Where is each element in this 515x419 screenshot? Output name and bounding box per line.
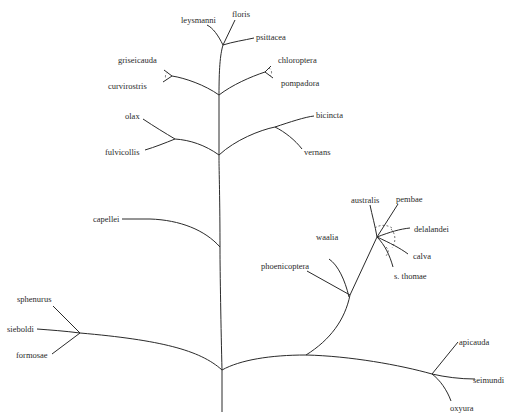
- branch-s-thomae: [377, 237, 393, 267]
- branch-pembae: [377, 204, 398, 237]
- label-formosae: formosae: [16, 350, 48, 360]
- branch-bicincta: [275, 116, 314, 127]
- label-vernans: vernans: [304, 147, 330, 157]
- branch-african-stem: [306, 237, 377, 355]
- branch-griseicauda: [164, 70, 172, 76]
- branch-left-lower: [80, 333, 222, 370]
- label-floris: floris: [232, 9, 250, 19]
- label-psittacea: psittacea: [256, 32, 286, 42]
- branch-curvirostris: [163, 76, 172, 82]
- label-waalia: waalia: [316, 232, 338, 242]
- main-trunk: [219, 45, 223, 412]
- branch-leysmanni: [207, 25, 223, 45]
- label-delalandei: delalandei: [414, 224, 450, 234]
- label-fulvicollis: fulvicollis: [105, 147, 139, 157]
- branch-sieboldi: [37, 329, 80, 333]
- label-curvirostris: curvirostris: [108, 81, 147, 91]
- label-pompadora: pompadora: [281, 78, 319, 88]
- label-sieboldi: sieboldi: [7, 324, 35, 334]
- label-sphenurus: sphenurus: [17, 294, 51, 304]
- label-bicincta: bicincta: [316, 110, 343, 120]
- phylogenetic-tree-diagram: leysmanni floris psittacea griseicauda c…: [0, 0, 515, 419]
- branch-psittacea: [223, 38, 254, 45]
- branch-right-lower: [222, 355, 432, 374]
- branch-phoenicoptera: [307, 271, 350, 295]
- label-apicauda: apicauda: [459, 337, 489, 347]
- branch-floris: [223, 20, 235, 45]
- branch-sphenurus: [53, 306, 80, 333]
- tree-canvas: leysmanni floris psittacea griseicauda c…: [0, 0, 515, 419]
- branch-seimundi: [432, 374, 475, 379]
- label-capellei: capellei: [93, 214, 120, 224]
- branch-oxyura: [432, 374, 451, 401]
- branch-right-upper: [219, 72, 265, 95]
- label-seimundi: seimundi: [473, 375, 505, 385]
- branch-formosae: [52, 333, 80, 354]
- label-olax: olax: [125, 111, 140, 121]
- label-calva: calva: [413, 251, 431, 261]
- branch-olax: [143, 119, 175, 139]
- branch-left-upper: [172, 76, 219, 95]
- label-pembae: pembae: [396, 194, 423, 204]
- label-australis: australis: [351, 195, 379, 205]
- branch-vernans: [275, 127, 302, 149]
- branch-calva: [377, 237, 408, 254]
- branch-right-mid: [219, 127, 275, 155]
- branch-left-mid: [175, 139, 219, 155]
- branch-waalia: [329, 259, 349, 297]
- branch-australis: [370, 205, 377, 237]
- label-oxyura: oxyura: [450, 403, 474, 413]
- label-s-thomae: s. thomae: [394, 271, 427, 281]
- branch-capellei: [122, 219, 220, 247]
- branch-apicauda: [432, 342, 458, 374]
- label-chloroptera: chloroptera: [278, 55, 317, 65]
- branch-fulvicollis: [145, 139, 175, 150]
- label-griseicauda: griseicauda: [118, 55, 157, 65]
- label-phoenicoptera: phoenicoptera: [261, 261, 309, 271]
- label-leysmanni: leysmanni: [181, 15, 217, 25]
